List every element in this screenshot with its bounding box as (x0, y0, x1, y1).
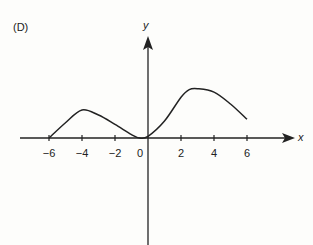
x-tick-label: −6 (43, 147, 56, 159)
x-tick-label: 2 (178, 147, 184, 159)
x-axis-label: x (298, 131, 304, 143)
y-axis-label: y (143, 19, 149, 31)
x-tick-label: 4 (211, 147, 217, 159)
x-tick-label: 0 (137, 147, 143, 159)
x-tick-label: −4 (76, 147, 89, 159)
x-tick-label: 6 (244, 147, 250, 159)
chart-plot (0, 0, 313, 245)
x-tick-label: −2 (109, 147, 122, 159)
